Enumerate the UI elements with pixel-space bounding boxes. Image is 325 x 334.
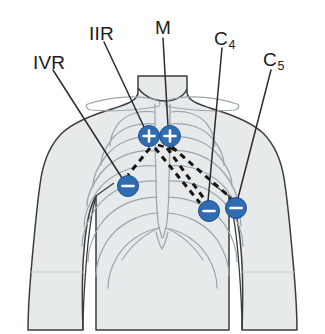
label-m: M: [155, 18, 171, 37]
electrode-negative-left[interactable]: [118, 176, 139, 197]
label-c5: C5: [263, 50, 284, 69]
torso-body: [28, 76, 297, 330]
figure-canvas: IVR IIR M C4 C5: [0, 0, 325, 334]
label-iir-text: IIR: [89, 23, 114, 44]
label-c4-text: C: [214, 28, 228, 49]
label-c4-subscript: 4: [228, 38, 235, 52]
label-c5-subscript: 5: [277, 59, 284, 73]
label-c4: C4: [214, 29, 235, 48]
electrode-negative-right[interactable]: [226, 198, 247, 219]
label-iir: IIR: [89, 24, 114, 43]
electrode-positive-right[interactable]: [160, 126, 181, 147]
label-m-text: M: [155, 17, 171, 38]
electrode-positive-left[interactable]: [139, 126, 160, 147]
label-ivr: IVR: [33, 53, 65, 72]
electrode-negative-middle[interactable]: [199, 201, 220, 222]
label-c5-text: C: [263, 49, 277, 70]
label-ivr-text: IVR: [33, 52, 65, 73]
